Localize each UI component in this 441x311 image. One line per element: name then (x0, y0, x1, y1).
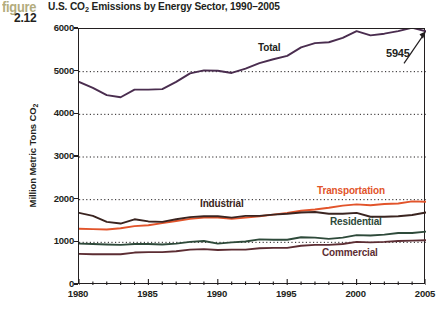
x-axis-tick-label: 1990 (193, 288, 241, 299)
y-axis-tick-label: 2000 (36, 194, 74, 204)
series-label-industrial: Industrial (200, 198, 244, 209)
x-axis-tick-label: 2000 (332, 288, 380, 299)
page-title: U.S. CO2 Emissions by Energy Sector, 199… (48, 0, 280, 14)
series-label-commercial: Commercial (322, 247, 378, 258)
chart-plot-area (78, 28, 425, 284)
callout-arrowhead (420, 31, 427, 38)
total-value-callout: 5945 (386, 47, 410, 59)
x-axis-tick-label: 1980 (54, 288, 102, 299)
y-axis-tick-label: 6000 (36, 23, 74, 33)
y-axis-tick-label: 5000 (36, 66, 74, 76)
page-title-suffix: Emissions by Energy Sector, 1990–2005 (89, 0, 280, 12)
series-label-residential: Residential (330, 216, 382, 227)
series-line-total (79, 29, 426, 97)
series-label-total: Total (258, 42, 280, 53)
y-axis-tick-label: 3000 (36, 151, 74, 161)
page-title-subscript: 2 (85, 5, 89, 14)
x-axis-tick-label: 1985 (123, 288, 171, 299)
x-axis-tick-label: 1995 (262, 288, 310, 299)
x-axis-tick-labels: 198019851990199520002005 (0, 288, 441, 308)
series-label-transportation: Transportation (317, 185, 385, 196)
y-axis-tick-label: 1000 (36, 236, 74, 246)
y-axis-tick-label: 4000 (36, 108, 74, 118)
x-axis-tick-label: 2005 (401, 288, 441, 299)
y-axis-tick-labels: 0100020003000400050006000 (30, 0, 74, 311)
